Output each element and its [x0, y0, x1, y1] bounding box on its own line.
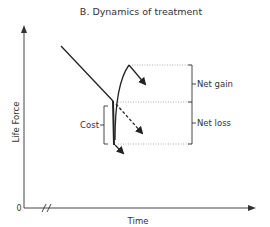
recovery-curve — [115, 65, 129, 140]
baseline-decline-line — [61, 46, 113, 101]
treatment-dynamics-diagram: B. Dynamics of treatment Life Force 0 Ti… — [0, 0, 270, 227]
x-axis-label: Time — [127, 216, 149, 226]
x-axis — [24, 204, 256, 212]
untreated-projection-arrow — [116, 104, 142, 133]
y-axis-label: Life Force — [11, 101, 21, 142]
net-gain-label: Net gain — [197, 79, 233, 89]
gain-loss-bracket — [188, 65, 196, 144]
origin-label: 0 — [16, 204, 21, 213]
y-axis — [21, 25, 27, 208]
net-loss-label: Net loss — [197, 118, 232, 128]
cost-label: Cost — [80, 120, 100, 130]
x-axis-arrow-icon — [248, 205, 256, 211]
reference-lines — [118, 65, 192, 144]
treatment-cost-drop — [113, 101, 114, 145]
y-axis-arrow-icon — [21, 25, 27, 33]
post-cost-arrow — [115, 145, 123, 153]
diagram-title: B. Dynamics of treatment — [80, 6, 203, 17]
cost-bracket — [100, 106, 108, 144]
net-gain-arrow — [129, 65, 145, 84]
